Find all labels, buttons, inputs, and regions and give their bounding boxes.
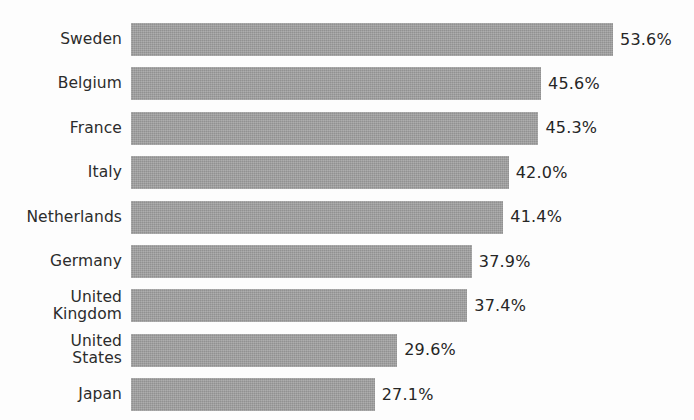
bar-chart: Sweden53.6%Belgium45.6%France45.3%Italy4… [0,0,694,420]
bar-rect [131,201,503,234]
category-label: United States [0,333,122,367]
bar-value-label: 37.9% [479,253,531,271]
bar-rect [131,156,509,189]
chart-plot-area: Sweden53.6%Belgium45.6%France45.3%Italy4… [0,0,694,420]
bar-value-label: 45.6% [548,75,600,93]
bar-track: 45.3% [122,112,694,145]
bar-value-label: 37.4% [474,297,526,315]
bar-track: 37.4% [122,289,694,322]
bar-track: 53.6% [122,23,694,56]
bar-rect [131,334,397,367]
category-label: France [0,120,122,137]
category-label: Sweden [0,31,122,48]
bar-rect [131,245,472,278]
bar-value-label: 29.6% [404,341,456,359]
bar-rect [131,378,375,411]
bar-value-label: 45.3% [545,119,597,137]
bar-track: 45.6% [122,67,694,100]
category-label: Italy [0,164,122,181]
chart-bar-row: France45.3% [0,112,694,145]
bar-value-label: 53.6% [620,31,672,49]
bar-rect [131,289,467,322]
bar-rect [131,67,541,100]
bar-rect [131,112,538,145]
bar-track: 41.4% [122,201,694,234]
category-label: Germany [0,253,122,270]
chart-bar-row: Belgium45.6% [0,67,694,100]
bar-value-label: 27.1% [382,386,434,404]
bar-value-label: 42.0% [516,164,568,182]
category-label: Japan [0,386,122,403]
bar-track: 27.1% [122,378,694,411]
chart-bar-row: Germany37.9% [0,245,694,278]
chart-bar-row: Netherlands41.4% [0,201,694,234]
bar-track: 29.6% [122,334,694,367]
chart-bar-row: United States29.6% [0,334,694,367]
chart-bar-row: Italy42.0% [0,156,694,189]
bar-rect [131,23,613,56]
bar-track: 37.9% [122,245,694,278]
chart-bar-row: Sweden53.6% [0,23,694,56]
category-label: Netherlands [0,209,122,226]
category-label: Belgium [0,75,122,92]
category-label: United Kingdom [0,289,122,323]
bar-track: 42.0% [122,156,694,189]
chart-bar-row: United Kingdom37.4% [0,289,694,322]
chart-bar-row: Japan27.1% [0,378,694,411]
bar-value-label: 41.4% [510,208,562,226]
